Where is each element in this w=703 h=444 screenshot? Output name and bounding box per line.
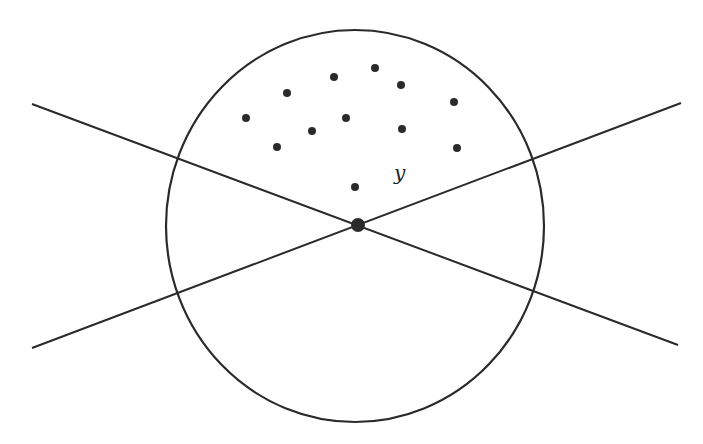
data-point	[453, 144, 461, 152]
data-point	[351, 183, 359, 191]
intersection-point	[351, 218, 365, 232]
diagram-canvas: y	[0, 0, 703, 444]
label-y: y	[393, 161, 406, 185]
data-point	[308, 127, 316, 135]
data-point	[371, 64, 379, 72]
data-point	[283, 89, 291, 97]
data-point	[242, 114, 250, 122]
data-point	[397, 81, 405, 89]
data-point	[273, 143, 281, 151]
point-cluster	[242, 64, 461, 191]
data-point	[450, 98, 458, 106]
data-point	[398, 125, 406, 133]
data-point	[342, 114, 350, 122]
data-point	[330, 73, 338, 81]
